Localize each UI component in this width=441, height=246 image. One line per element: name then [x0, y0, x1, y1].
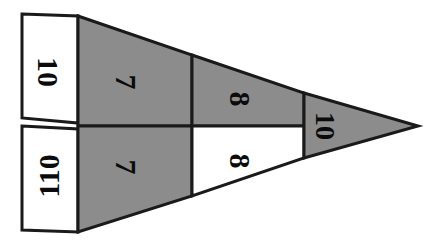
label-lower-inner: 7: [110, 160, 143, 175]
left-flaps-group: [22, 14, 78, 232]
segment-lower-inner: [78, 126, 192, 232]
triangle-diagram-svg: 10 110 7 7 8 8 10: [0, 0, 441, 246]
label-right-tip: 10: [310, 112, 341, 140]
label-lower-middle: 8: [224, 154, 257, 169]
label-lower-left-flap: 110: [32, 154, 65, 197]
label-upper-middle: 8: [224, 92, 257, 107]
segment-upper-middle: [192, 55, 304, 126]
main-triangle-group: [78, 16, 418, 232]
label-upper-inner: 7: [110, 75, 143, 90]
label-upper-left-flap: 10: [32, 57, 65, 87]
segment-upper-inner: [78, 16, 192, 126]
triangle-figure: 10 110 7 7 8 8 10: [0, 0, 441, 246]
